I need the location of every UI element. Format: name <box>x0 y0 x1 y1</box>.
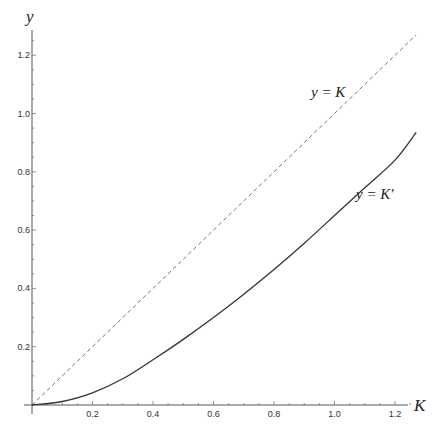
y-tick-label: 0.2 <box>17 342 30 352</box>
y-tick-label: 1.0 <box>17 109 30 119</box>
y-tick-label: 1.2 <box>17 50 30 60</box>
x-tick-label: 0.8 <box>268 409 281 419</box>
chart: 0.20.40.60.81.01.20.20.40.60.81.01.2 K y… <box>0 0 437 435</box>
x-tick-label: 0.4 <box>147 409 160 419</box>
y-tick-label: 0.4 <box>17 283 30 293</box>
x-tick-label: 0.6 <box>207 409 220 419</box>
x-tick-label: 1.0 <box>328 409 341 419</box>
x-tick-label: 1.2 <box>389 409 402 419</box>
series-y-equals-k <box>32 35 416 405</box>
annotation-y-equals-k-prime: y = K′ <box>354 186 394 202</box>
y-axis-label: y <box>24 7 34 26</box>
y-tick-label: 0.8 <box>17 167 30 177</box>
series-y-equals-k-prime <box>32 132 416 405</box>
y-tick-label: 0.6 <box>17 225 30 235</box>
x-tick-label: 0.2 <box>86 409 99 419</box>
annotation-y-equals-k: y = K <box>309 84 346 100</box>
series <box>32 35 416 405</box>
axes <box>24 30 408 414</box>
x-axis-label: K <box>413 396 427 415</box>
